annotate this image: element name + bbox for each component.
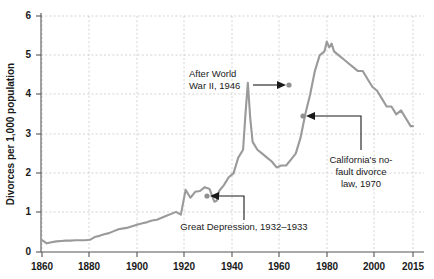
- annotation-california-line-1: California's no-: [329, 154, 392, 165]
- chart-canvas: 6 5 4 3 2 1 0 1860 1880 1900 1920 1940 1…: [0, 0, 434, 279]
- annotation-great-depression-text: Great Depression, 1932–1933: [180, 221, 307, 232]
- ytick-label-5: 5: [25, 49, 31, 60]
- annotation-great-depression: Great Depression, 1932–1933: [180, 192, 307, 232]
- y-axis-title: Divorces per 1,000 population: [5, 63, 16, 205]
- x-tick-labels: 1860 1880 1900 1920 1940 1960 1980 2000 …: [31, 261, 425, 272]
- xtick-label-1960: 1960: [268, 261, 291, 272]
- ytick-label-0: 0: [25, 246, 31, 257]
- xtick-label-1880: 1880: [78, 261, 101, 272]
- ytick-label-2: 2: [25, 167, 31, 178]
- xtick-label-1900: 1900: [126, 261, 149, 272]
- xtick-label-1920: 1920: [173, 261, 196, 272]
- annotation-wwii-arrowhead: [277, 81, 286, 89]
- xtick-label-2015: 2015: [402, 261, 425, 272]
- ytick-label-3: 3: [25, 128, 31, 139]
- annotation-california-arrowhead: [306, 112, 315, 120]
- gridlines-vertical: [42, 16, 413, 251]
- annotation-california-line-3: law, 1970: [341, 178, 381, 189]
- x-tick-marks: [42, 252, 413, 257]
- annotation-california-leader: [314, 116, 361, 150]
- y-tick-labels: 6 5 4 3 2 1 0: [25, 10, 31, 257]
- xtick-label-1980: 1980: [316, 261, 339, 272]
- ytick-label-6: 6: [25, 10, 31, 21]
- annotation-california: California's no- fault divorce law, 1970: [300, 112, 392, 189]
- annotation-wwii: After World War II, 1946: [189, 68, 292, 91]
- y-tick-marks: [36, 16, 41, 252]
- annotation-wwii-point: [286, 82, 291, 87]
- annotation-wwii-line-2: War II, 1946: [189, 80, 240, 91]
- annotation-great-depression-leader: [218, 196, 244, 220]
- ytick-label-4: 4: [25, 88, 31, 99]
- annotation-great-depression-point: [204, 193, 209, 198]
- divorce-rate-chart: 6 5 4 3 2 1 0 1860 1880 1900 1920 1940 1…: [0, 0, 434, 279]
- ytick-label-1: 1: [25, 206, 31, 217]
- annotation-california-point: [300, 113, 305, 118]
- annotation-wwii-line-1: After World: [189, 68, 236, 79]
- xtick-label-1940: 1940: [221, 261, 244, 272]
- xtick-label-1860: 1860: [31, 261, 54, 272]
- annotation-california-line-2: fault divorce: [335, 166, 386, 177]
- xtick-label-2000: 2000: [363, 261, 386, 272]
